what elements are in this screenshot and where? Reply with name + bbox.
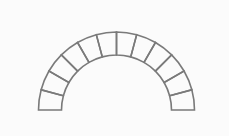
arch-drawing <box>0 0 229 136</box>
voussoir-block <box>144 42 172 71</box>
arch <box>39 32 195 110</box>
voussoir-block <box>49 55 78 83</box>
voussoir-block <box>96 32 116 57</box>
arch-diagram <box>0 0 229 136</box>
voussoir-block <box>164 71 192 96</box>
voussoir-block <box>170 90 195 110</box>
voussoir-block <box>78 35 103 63</box>
